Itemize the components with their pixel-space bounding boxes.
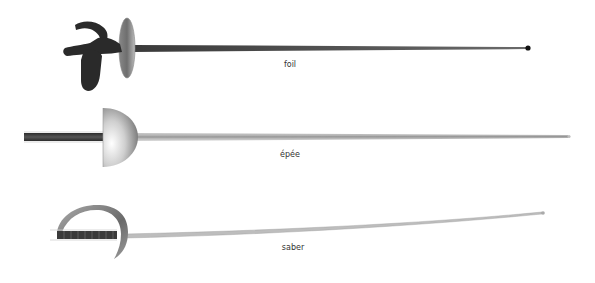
weapons-illustration <box>0 0 595 283</box>
saber-label: saber <box>263 243 323 252</box>
foil-bell-guard <box>119 18 135 78</box>
saber-grip <box>57 231 117 239</box>
epee-tip <box>567 135 570 138</box>
saber-blade <box>125 212 542 238</box>
epee-label: épée <box>260 150 320 159</box>
foil-label: foil <box>260 60 320 69</box>
saber-tip <box>541 211 545 215</box>
foil-weapon <box>63 18 530 91</box>
foil-blade <box>133 45 527 52</box>
foil-tip <box>525 45 530 50</box>
epee-grip <box>24 133 104 141</box>
epee-bell-guard <box>103 108 138 167</box>
foil-pistol-grip <box>63 21 122 91</box>
fencing-weapons-diagram: foil épée saber <box>0 0 595 283</box>
